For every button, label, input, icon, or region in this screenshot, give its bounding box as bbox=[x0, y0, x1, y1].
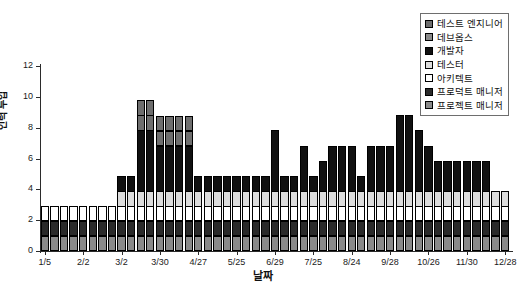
bar-segment bbox=[501, 206, 509, 221]
bar-segment bbox=[386, 191, 394, 206]
bar bbox=[290, 174, 298, 251]
bar-segment bbox=[472, 161, 480, 192]
bar-segment bbox=[280, 176, 288, 191]
bar bbox=[443, 159, 451, 252]
legend-item-label: 데브옵스 bbox=[437, 32, 473, 43]
bar-segment bbox=[60, 221, 68, 236]
bar-segment bbox=[185, 206, 193, 221]
bar-segment bbox=[213, 236, 221, 251]
bar-segment bbox=[232, 221, 240, 236]
legend-swatch-icon bbox=[425, 20, 433, 28]
bar-segment bbox=[434, 161, 442, 192]
legend-item-label: 개발자 bbox=[437, 45, 464, 56]
bar-segment bbox=[261, 206, 269, 221]
bar-segment bbox=[415, 191, 423, 206]
bar-segment bbox=[319, 221, 327, 236]
bar-segment bbox=[357, 206, 365, 221]
legend-item[interactable]: 아키텍트 bbox=[425, 71, 503, 85]
bar bbox=[223, 174, 231, 251]
bar bbox=[108, 205, 116, 251]
bar-segment bbox=[50, 221, 58, 236]
bar-segment bbox=[367, 221, 375, 236]
bar-segment bbox=[300, 206, 308, 221]
x-tick-mark bbox=[467, 251, 468, 255]
bar-segment bbox=[491, 206, 499, 221]
bar bbox=[156, 112, 164, 251]
y-axis-label: 인력 투입 bbox=[0, 91, 9, 130]
bar-segment bbox=[242, 191, 250, 206]
bar-segment bbox=[146, 115, 154, 130]
bar-segment bbox=[194, 176, 202, 191]
legend-swatch-icon bbox=[425, 47, 433, 55]
bar-segment bbox=[300, 221, 308, 236]
bar-segment bbox=[185, 221, 193, 236]
bar-segment bbox=[434, 206, 442, 221]
bar-segment bbox=[386, 236, 394, 251]
bar-segment bbox=[463, 161, 471, 192]
bar-segment bbox=[223, 191, 231, 206]
bar-segment bbox=[453, 161, 461, 192]
bar-segment bbox=[127, 221, 135, 236]
legend-item[interactable]: 프로덕트 매니저 bbox=[425, 85, 503, 99]
bar-segment bbox=[204, 176, 212, 191]
bar bbox=[137, 97, 145, 251]
x-tick-mark bbox=[122, 251, 123, 255]
bar-segment bbox=[89, 221, 97, 236]
bar-segment bbox=[405, 191, 413, 206]
bar-segment bbox=[290, 206, 298, 221]
bar-segment bbox=[501, 221, 509, 236]
legend-item[interactable]: 테스트 엔지니어 bbox=[425, 17, 503, 31]
bar-segment bbox=[204, 191, 212, 206]
bar-segment bbox=[252, 221, 260, 236]
bar-segment bbox=[415, 236, 423, 251]
bar-segment bbox=[424, 221, 432, 236]
legend-item-label: 테스트 엔지니어 bbox=[437, 18, 503, 29]
bar-segment bbox=[463, 236, 471, 251]
legend-swatch-icon bbox=[425, 74, 433, 82]
bar bbox=[204, 174, 212, 251]
bar-segment bbox=[453, 206, 461, 221]
bar-segment bbox=[280, 206, 288, 221]
bar-segment bbox=[165, 206, 173, 221]
bar-segment bbox=[213, 206, 221, 221]
bar-segment bbox=[156, 116, 164, 131]
bar-segment bbox=[137, 130, 145, 192]
x-tick-mark bbox=[390, 251, 391, 255]
bar bbox=[376, 143, 384, 251]
bar-segment bbox=[271, 206, 279, 221]
bar-segment bbox=[319, 206, 327, 221]
legend-item[interactable]: 테스터 bbox=[425, 58, 503, 72]
bar-segment bbox=[348, 146, 356, 192]
bar-segment bbox=[348, 221, 356, 236]
bar-segment bbox=[185, 116, 193, 131]
bar bbox=[232, 174, 240, 251]
bar-segment bbox=[60, 206, 68, 221]
bar-segment bbox=[261, 221, 269, 236]
bar-segment bbox=[405, 115, 413, 192]
bar-segment bbox=[165, 236, 173, 251]
x-tick-mark bbox=[505, 251, 506, 255]
legend-item[interactable]: 개발자 bbox=[425, 44, 503, 58]
bar-segment bbox=[328, 221, 336, 236]
legend-item[interactable]: 데브옵스 bbox=[425, 31, 503, 45]
bar-segment bbox=[319, 191, 327, 206]
bar bbox=[98, 205, 106, 251]
bar-segment bbox=[175, 236, 183, 251]
y-tick-label: 6 bbox=[7, 152, 33, 165]
bar bbox=[117, 174, 125, 251]
legend-item[interactable]: 프로젝트 매니저 bbox=[425, 99, 503, 113]
y-tick-label: 10 bbox=[7, 90, 33, 103]
bar-segment bbox=[271, 130, 279, 192]
bar-segment bbox=[175, 131, 183, 146]
bar-segment bbox=[60, 236, 68, 251]
legend-swatch-icon bbox=[425, 61, 433, 69]
bar-segment bbox=[156, 221, 164, 236]
bar-segment bbox=[146, 206, 154, 221]
bar-segment bbox=[271, 236, 279, 251]
bar bbox=[415, 128, 423, 251]
bar-segment bbox=[146, 221, 154, 236]
bar-segment bbox=[280, 236, 288, 251]
bar-segment bbox=[261, 236, 269, 251]
bar-segment bbox=[108, 206, 116, 221]
bar-segment bbox=[242, 221, 250, 236]
